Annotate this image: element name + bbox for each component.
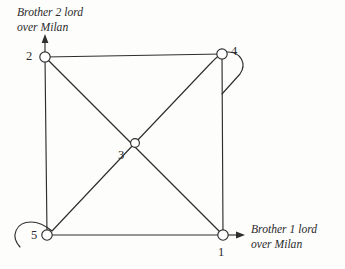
graph-diagram: 2 4 3 5 1 Brother 2 lord over Milan Brot… <box>0 0 345 269</box>
arrow-node-1-right <box>228 232 245 239</box>
edge-4-1 <box>222 54 223 235</box>
arrow-node-2-up <box>42 34 49 52</box>
node-5[interactable] <box>42 230 52 240</box>
annotation-brother-2: Brother 2 lord over Milan <box>17 6 83 36</box>
node-label-1: 1 <box>218 246 224 259</box>
node-label-5: 5 <box>31 229 37 242</box>
node-label-3: 3 <box>118 149 124 162</box>
node-3[interactable] <box>131 139 140 148</box>
node-label-4: 4 <box>231 45 237 58</box>
node-label-2: 2 <box>26 50 32 63</box>
edge-5-4-diagonal <box>15 52 243 247</box>
node-1[interactable] <box>218 230 228 240</box>
node-4[interactable] <box>217 49 227 59</box>
edge-2-4 <box>45 54 222 57</box>
annotation-brother-1: Brother 1 lord over Milan <box>251 223 317 253</box>
node-2[interactable] <box>40 52 50 62</box>
edge-2-5 <box>45 57 47 235</box>
